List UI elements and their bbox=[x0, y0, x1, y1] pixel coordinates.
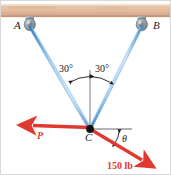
force-arrow-load bbox=[90, 129, 142, 160]
theta-arc bbox=[115, 129, 120, 144]
force-diagram-figure: A B 30° 30° C θ P 150 lb bbox=[0, 0, 171, 175]
label-anchor-a: A bbox=[14, 20, 21, 31]
angle-arc-right bbox=[91, 77, 111, 83]
label-force-magnitude: 150 lb bbox=[107, 161, 133, 171]
force-arrow-p bbox=[33, 126, 90, 128]
overhead-beam bbox=[1, 4, 171, 17]
label-joint-c: C bbox=[85, 132, 92, 143]
label-angle-right: 30° bbox=[95, 64, 109, 74]
diagram-canvas bbox=[1, 1, 171, 175]
cable-ac bbox=[31, 27, 92, 129]
label-anchor-b: B bbox=[153, 20, 160, 31]
label-angle-left: 30° bbox=[59, 64, 73, 74]
cable-bc bbox=[89, 27, 141, 129]
label-force-p: P bbox=[37, 131, 43, 141]
angle-arc-left bbox=[70, 77, 90, 83]
label-theta: θ bbox=[122, 134, 127, 144]
